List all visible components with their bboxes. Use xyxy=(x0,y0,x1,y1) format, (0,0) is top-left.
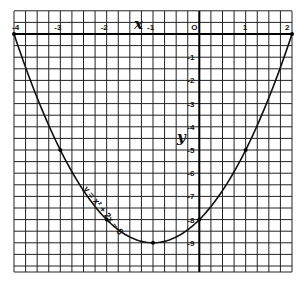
svg-text:-4: -4 xyxy=(187,123,195,132)
svg-text:-5: -5 xyxy=(187,146,195,155)
svg-text:-6: -6 xyxy=(187,169,195,178)
svg-text:-3: -3 xyxy=(187,100,195,109)
y-axis-label: y xyxy=(176,128,187,146)
svg-text:-2: -2 xyxy=(187,76,195,85)
svg-text:-9: -9 xyxy=(187,239,195,248)
svg-text:1: 1 xyxy=(243,23,248,32)
svg-text:-1: -1 xyxy=(147,23,155,32)
svg-text:-8: -8 xyxy=(187,216,195,225)
svg-text:-4: -4 xyxy=(12,23,20,32)
x-axis-label: x xyxy=(133,15,144,33)
parabola-chart: -4-3-2-1O12-1-2-3-4-5-6-7-8-9 x y y = x²… xyxy=(0,0,301,284)
svg-text:-7: -7 xyxy=(187,192,195,201)
svg-text:-1: -1 xyxy=(187,53,195,62)
svg-text:-2: -2 xyxy=(101,23,109,32)
svg-text:-3: -3 xyxy=(54,23,62,32)
svg-text:2: 2 xyxy=(285,23,290,32)
equation-label: y = x² + 2x − 8 xyxy=(81,184,125,236)
svg-text:O: O xyxy=(191,23,197,32)
